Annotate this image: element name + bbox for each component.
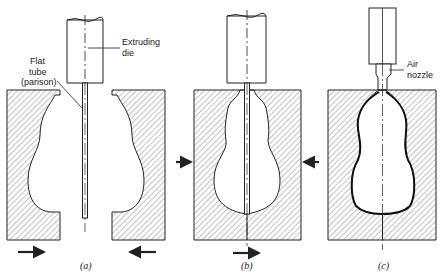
label-air: Air bbox=[407, 59, 418, 69]
label-parison: (parison) bbox=[21, 77, 57, 87]
panel-b: (b) bbox=[176, 10, 319, 272]
panel-c: Air nozzle (c) bbox=[328, 8, 436, 272]
air-nozzle bbox=[376, 64, 404, 90]
caption-c: (c) bbox=[378, 260, 390, 272]
left-mould-half bbox=[7, 90, 60, 240]
label-die: die bbox=[122, 48, 134, 58]
parison-tube bbox=[83, 83, 88, 232]
label-tube: tube bbox=[29, 67, 47, 77]
label-nozzle: nozzle bbox=[407, 70, 433, 80]
extruding-die bbox=[67, 15, 103, 83]
extruding-die-b bbox=[227, 10, 266, 83]
extruding-die-c bbox=[369, 8, 396, 64]
blow-moulding-diagram: Extruding die Flat tube (parison) (a) (b… bbox=[0, 0, 445, 277]
caption-b: (b) bbox=[241, 260, 253, 272]
caption-a: (a) bbox=[80, 260, 92, 272]
tube-leader-line bbox=[57, 81, 82, 108]
label-flat: Flat bbox=[30, 56, 46, 66]
right-mould-half bbox=[112, 90, 165, 240]
panel-a: Extruding die Flat tube (parison) (a) bbox=[7, 15, 165, 272]
label-extruding: Extruding bbox=[122, 37, 160, 47]
